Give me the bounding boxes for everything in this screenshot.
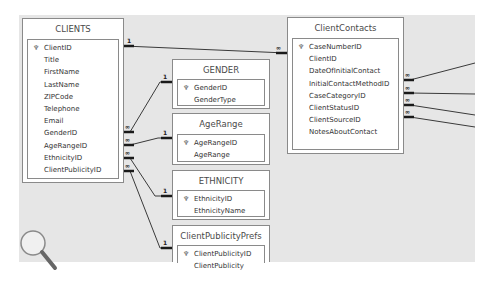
- field-gender-type[interactable]: GenderType: [178, 94, 264, 106]
- field-age-range[interactable]: AgeRange: [178, 149, 264, 161]
- table-client-publicity-prefs[interactable]: ClientPublicityPrefs ♆ClientPublicityID …: [172, 225, 270, 262]
- field-first-name[interactable]: FirstName: [28, 66, 118, 78]
- table-title: AgeRange: [173, 116, 269, 132]
- field-case-category-id[interactable]: CaseCategoryID: [293, 90, 398, 102]
- field-case-number-id[interactable]: ♆CaseNumberID: [293, 41, 398, 53]
- field-client-source-id[interactable]: ClientSourceID: [293, 114, 398, 126]
- field-list: ♆GenderID GenderType: [177, 79, 265, 106]
- table-client-contacts[interactable]: ClientContacts ♆CaseNumberID ClientID Da…: [287, 17, 404, 154]
- key-icon: ♆: [183, 137, 189, 149]
- key-icon: ♆: [183, 248, 189, 260]
- table-title: CLIENTS: [23, 21, 123, 37]
- key-icon: ♆: [183, 193, 189, 205]
- field-email[interactable]: Email: [28, 115, 118, 127]
- field-zip-code[interactable]: ZIPCode: [28, 91, 118, 103]
- field-age-range-id[interactable]: ♆AgeRangeID: [178, 137, 264, 149]
- field-client-status-id[interactable]: ClientStatusID: [293, 102, 398, 114]
- table-title: GENDER: [173, 62, 269, 78]
- table-title: ETHNICITY: [173, 173, 269, 189]
- field-list: ♆ClientID Title FirstName LastName ZIPCo…: [27, 39, 119, 179]
- table-ethnicity[interactable]: ETHNICITY ♆EthnicityID EthnicityName: [172, 170, 270, 220]
- field-last-name[interactable]: LastName: [28, 79, 118, 91]
- field-list: ♆ClientPublicityID ClientPublicity: [177, 245, 265, 263]
- field-ethnicity-name[interactable]: EthnicityName: [178, 205, 264, 217]
- field-list: ♆AgeRangeID AgeRange: [177, 134, 265, 162]
- field-client-publicity-id[interactable]: ♆ClientPublicityID: [178, 248, 264, 260]
- table-age-range[interactable]: AgeRange ♆AgeRangeID AgeRange: [172, 113, 270, 165]
- field-client-id[interactable]: ClientID: [293, 53, 398, 65]
- table-title: ClientPublicityPrefs: [173, 228, 269, 244]
- field-initial-contact-method-id[interactable]: InitialContactMethodID: [293, 78, 398, 90]
- field-title[interactable]: Title: [28, 54, 118, 66]
- key-icon: ♆: [298, 41, 304, 53]
- key-icon: ♆: [33, 42, 39, 54]
- table-title: ClientContacts: [288, 20, 403, 36]
- field-client-publicity-id[interactable]: ClientPublicityID: [28, 164, 118, 176]
- field-gender-id[interactable]: ♆GenderID: [178, 82, 264, 94]
- magnifier-icon: [18, 228, 60, 274]
- field-gender-id[interactable]: GenderID: [28, 127, 118, 139]
- field-date-of-initial-contact[interactable]: DateOfInitialContact: [293, 65, 398, 77]
- field-client-publicity[interactable]: ClientPublicity: [178, 260, 264, 272]
- field-telephone[interactable]: Telephone: [28, 103, 118, 115]
- field-client-id[interactable]: ♆ClientID: [28, 42, 118, 54]
- field-list: ♆EthnicityID EthnicityName: [177, 190, 265, 217]
- field-age-range-id[interactable]: AgeRangeID: [28, 140, 118, 152]
- field-notes-about-contact[interactable]: NotesAboutContact: [293, 126, 398, 138]
- field-ethnicity-id[interactable]: ♆EthnicityID: [178, 193, 264, 205]
- field-list: ♆CaseNumberID ClientID DateOfInitialCont…: [292, 38, 399, 150]
- key-icon: ♆: [183, 82, 189, 94]
- table-clients[interactable]: CLIENTS ♆ClientID Title FirstName LastNa…: [22, 18, 124, 183]
- table-gender[interactable]: GENDER ♆GenderID GenderType: [172, 59, 270, 109]
- field-ethnicity-id[interactable]: EthnicityID: [28, 152, 118, 164]
